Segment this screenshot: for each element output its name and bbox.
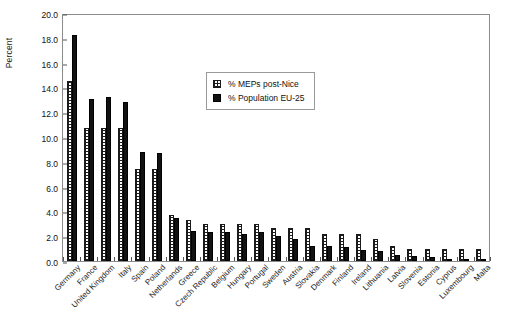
x-tick-mark <box>320 257 321 261</box>
bar-group <box>148 15 165 261</box>
bar-group <box>63 15 80 261</box>
bar-group <box>114 15 131 261</box>
x-tick-mark <box>234 257 235 261</box>
bar-group <box>182 15 199 261</box>
bar-group <box>404 15 421 261</box>
x-tick-mark <box>97 257 98 261</box>
x-tick-mark <box>183 257 184 261</box>
bar-group <box>80 15 97 261</box>
bar-group <box>319 15 336 261</box>
y-tick-label: 10.0 <box>41 134 58 144</box>
x-tick-mark <box>457 257 458 261</box>
x-tick-mark <box>490 257 491 261</box>
bar-population <box>174 218 179 261</box>
bar-population <box>191 231 196 261</box>
bar-population <box>242 234 247 261</box>
x-tick-mark <box>474 257 475 261</box>
x-tick-mark <box>149 257 150 261</box>
x-tick-mark <box>388 257 389 261</box>
bar-group <box>387 15 404 261</box>
bar-population <box>327 246 332 261</box>
bar-population <box>430 257 435 261</box>
bar-group <box>353 15 370 261</box>
bar-group <box>268 15 285 261</box>
bar-population <box>140 152 145 261</box>
bar-group <box>336 15 353 261</box>
x-tick-mark <box>80 257 81 261</box>
x-tick-mark <box>131 257 132 261</box>
bar-group <box>216 15 233 261</box>
chart-legend: % MEPs post-Nice % Population EU-25 <box>206 72 315 110</box>
bar-population <box>259 232 264 261</box>
bar-group <box>370 15 387 261</box>
y-tick-label: 14.0 <box>41 84 58 94</box>
y-tick-label: 20.0 <box>41 10 58 20</box>
bar-population <box>344 247 349 261</box>
y-tick-label: 2.0 <box>46 233 58 243</box>
x-tick-mark <box>354 257 355 261</box>
bar-population <box>361 250 366 261</box>
bar-group <box>472 15 489 261</box>
bar-group <box>421 15 438 261</box>
bar-population <box>106 97 111 261</box>
bar-population <box>157 153 162 261</box>
x-tick-mark <box>337 257 338 261</box>
bar-population <box>378 251 383 261</box>
y-axis-label: Percent <box>4 13 14 93</box>
y-tick-label: 6.0 <box>46 184 58 194</box>
bar-population <box>395 255 400 261</box>
bar-population <box>276 236 281 261</box>
x-tick-mark <box>166 257 167 261</box>
y-tick-label: 0.0 <box>46 258 58 268</box>
bar-population <box>481 259 486 261</box>
x-axis-labels: GermanyFranceUnited KingdomItalySpainPol… <box>62 263 490 329</box>
y-tick-label: 18.0 <box>41 35 58 45</box>
x-tick-mark <box>371 257 372 261</box>
legend-entry: % MEPs post-Nice <box>213 77 305 91</box>
x-tick-label: Malta <box>473 263 493 283</box>
y-tick-label: 12.0 <box>41 109 58 119</box>
y-tick-label: 8.0 <box>46 159 58 169</box>
legend-label-population: % Population EU-25 <box>228 93 305 103</box>
y-tick-label: 16.0 <box>41 60 58 70</box>
plot-area: 0.02.04.06.08.010.012.014.016.018.020.0 <box>62 14 490 262</box>
bar-group <box>455 15 472 261</box>
bar-group <box>285 15 302 261</box>
bar-group <box>131 15 148 261</box>
legend-entry: % Population EU-25 <box>213 91 305 105</box>
x-tick-mark <box>114 257 115 261</box>
bar-group <box>97 15 114 261</box>
x-tick-mark <box>286 257 287 261</box>
x-tick-mark <box>63 257 64 261</box>
x-tick-mark <box>200 257 201 261</box>
bar-group <box>302 15 319 261</box>
bar-group <box>165 15 182 261</box>
bar-population <box>447 259 452 261</box>
bar-population <box>310 246 315 261</box>
legend-swatch-meps-icon <box>213 80 221 88</box>
x-tick-mark <box>303 257 304 261</box>
bar-group <box>199 15 216 261</box>
bar-population <box>123 102 128 261</box>
y-tick-label: 4.0 <box>46 208 58 218</box>
bar-population <box>225 232 230 261</box>
bar-group <box>438 15 455 261</box>
x-tick-mark <box>217 257 218 261</box>
bar-population <box>464 259 469 261</box>
bar-population <box>72 35 77 261</box>
bar-group <box>233 15 250 261</box>
bar-group <box>251 15 268 261</box>
legend-swatch-population-icon <box>213 94 221 102</box>
legend-label-meps: % MEPs post-Nice <box>228 79 299 89</box>
bar-population <box>293 239 298 261</box>
x-tick-mark <box>268 257 269 261</box>
x-tick-mark <box>405 257 406 261</box>
bar-population <box>412 256 417 261</box>
bar-population <box>208 232 213 261</box>
bar-series-container <box>63 15 489 261</box>
bar-population <box>89 99 94 261</box>
x-tick-mark <box>440 257 441 261</box>
x-tick-mark <box>423 257 424 261</box>
chart-figure: Percent 0.02.04.06.08.010.012.014.016.01… <box>0 0 506 330</box>
x-tick-mark <box>251 257 252 261</box>
